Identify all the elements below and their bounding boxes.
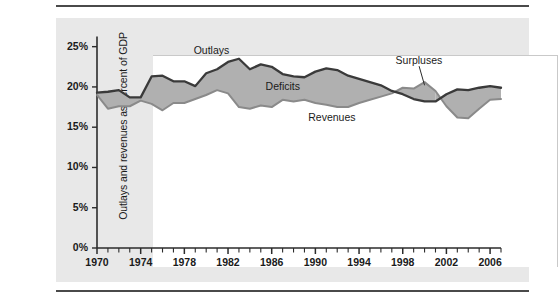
x-tick-label-2006: 2006 [470,256,510,268]
x-tick-label-1994: 1994 [339,256,379,268]
annotation-deficits: Deficits [266,80,300,92]
y-tick-label-10%: 10% [54,160,88,172]
annotation-leader-surpluses [419,66,424,85]
y-tick-label-25%: 25% [54,40,88,52]
annotation-outlays: Outlays [194,44,230,56]
y-tick-label-5%: 5% [54,201,88,213]
x-tick-label-1990: 1990 [295,256,335,268]
x-tick-label-1998: 1998 [383,256,423,268]
deficit-area-0 [97,59,392,111]
x-tick-label-1986: 1986 [252,256,292,268]
x-tick-label-1982: 1982 [208,256,248,268]
annotation-revenues: Revenues [308,111,355,123]
x-tick-label-2002: 2002 [426,256,466,268]
y-tick-label-20%: 20% [54,80,88,92]
annotation-leader-layer [419,66,424,85]
y-tick-label-15%: 15% [54,120,88,132]
axis-layer [92,37,501,255]
annotation-surpluses: Surpluses [396,54,443,66]
x-tick-label-1974: 1974 [121,256,161,268]
x-tick-label-1978: 1978 [164,256,204,268]
y-tick-label-0%: 0% [54,241,88,253]
x-tick-label-1970: 1970 [77,256,117,268]
